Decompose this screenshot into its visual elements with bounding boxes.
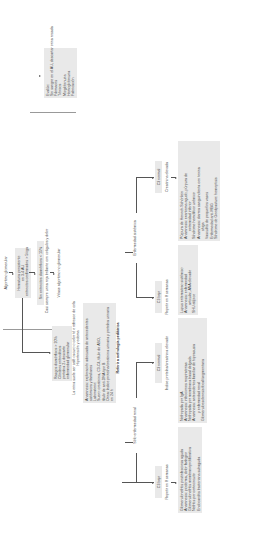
arrow-icon xyxy=(152,362,154,364)
referral-label: Referir a nefrología pediátrica xyxy=(116,313,120,383)
text-line: Síndrome de Goodpasture: hemoptisis xyxy=(214,143,218,239)
arrow-icon xyxy=(49,352,51,354)
systemic-c3-low-list: Lupus eritematoso sistémico Anamnesis: e… xyxy=(178,245,198,315)
renal-c3-low: C3 bajo xyxy=(155,466,162,498)
glomerular-criteria-box: Rasgos dismórficos > 20% Cilindros eritr… xyxy=(52,326,72,381)
arrow-icon xyxy=(152,297,154,299)
renal-c3-low-note: Repetir en 8 semanas xyxy=(165,456,169,508)
systemic-c3-normal-note: Creatinina elevada xyxy=(165,151,169,203)
divider xyxy=(30,112,76,113)
branch-systemic: Enfermedad sistémica xyxy=(133,213,137,263)
arrow-icon xyxy=(12,273,14,275)
connector xyxy=(22,352,50,353)
non-glomerular-link: Véase algoritmo no glomerular xyxy=(57,238,61,308)
text-line: enfermedad glomerular xyxy=(66,328,70,379)
text-line: en 24 h xyxy=(110,305,114,401)
systemic-c3-low: C3 bajo xyxy=(155,281,162,313)
connector xyxy=(22,298,23,353)
renal-c3-normal: C3 normal xyxy=(155,343,162,383)
renal-c3-normal-note: Índice proteína/creatinina elevado xyxy=(165,328,169,398)
text-line: Orina: índice proteína/creatinina urinar… xyxy=(106,305,110,401)
connector xyxy=(122,482,137,483)
arrow-icon xyxy=(53,273,55,275)
text-line: Hipertensión y edema xyxy=(76,293,80,403)
systemic-c3-normal-list: Púrpura de Henoch-Schönlein Anamnesis: e… xyxy=(178,141,220,241)
branch-renal-only: Sólo enfermedad renal xyxy=(133,398,137,453)
flowchart-canvas: Algoritmo glomerular Hematuria persisten… xyxy=(0,0,256,553)
systemic-c3-normal: C3 normal xyxy=(155,161,162,193)
workup-box: Anamnesis: exploración adecuada de antec… xyxy=(83,303,116,403)
root-node: Algoritmo glomerular xyxy=(4,243,8,303)
evaluate-box: Evalúe: Sin sangre en el AU, descartar o… xyxy=(44,48,77,98)
arrow-icon xyxy=(39,75,41,77)
text-line: Glomeruloesclerosis focal/segmentaria xyxy=(201,320,205,421)
arrow-icon xyxy=(175,482,177,484)
text-line: SHU atípico xyxy=(192,247,196,313)
systemic-c3-low-note: Repetir en 8 semanas xyxy=(165,271,169,323)
arrow-icon xyxy=(175,177,177,179)
glomerular-note: La orina suele ser café oscuro o color t… xyxy=(72,293,81,403)
renal-c3-normal-list: Nefropatía por IgA Anamnesis: infeccione… xyxy=(178,318,207,423)
arrow-icon xyxy=(34,273,36,275)
non-dysmorphic-box: Sin eritrocitos dismórficos < 15% xyxy=(37,241,44,305)
arrow-icon xyxy=(152,177,154,179)
text-line: Endocarditis bacteriana subaguda xyxy=(197,429,201,511)
renal-c3-low-list: Glomerulonefritis postinfecciosa aguda A… xyxy=(178,427,202,513)
step2-note: Casi siempre urina roja brillante con co… xyxy=(45,221,49,321)
arrow-icon xyxy=(152,482,154,484)
text-line: Fabricación xyxy=(71,50,75,96)
